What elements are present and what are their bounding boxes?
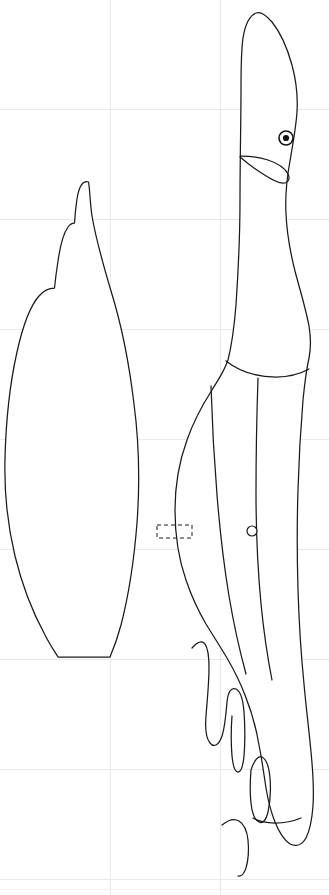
pattern-sheet-canvas: Pattern Sheet Side panel piece Bird body… [0, 0, 329, 895]
eye-pupil-icon [283, 135, 289, 141]
pattern-drawing [0, 0, 329, 895]
side-panel-outline [5, 182, 139, 657]
side-panel-piece [5, 182, 139, 657]
foot-toe-divider-line [222, 820, 248, 877]
placement-dot-marking [247, 526, 257, 536]
